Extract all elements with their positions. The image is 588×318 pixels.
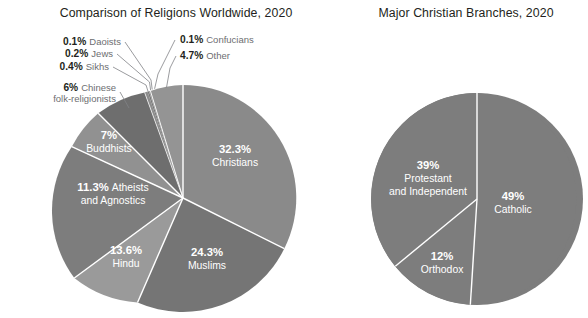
label-jews-name: Jews (91, 48, 113, 59)
label-sikhs: 0.4%Sikhs (60, 61, 110, 72)
label-daoists-name: Daoists (89, 36, 121, 47)
label-sikhs-pct: 0.4% (60, 61, 83, 72)
leader-other (167, 56, 177, 88)
label-protestant-pct: 39% (417, 159, 440, 171)
leader-daoists (125, 42, 152, 90)
label-jews-pct: 0.2% (65, 48, 88, 59)
label-chinese-folk-pct: 6% (63, 82, 78, 93)
label-catholic-pct: 49% (502, 190, 525, 202)
right-chart-title: Major Christian Branches, 2020 (378, 6, 553, 20)
label-orthodox-name: Orthodox (421, 264, 465, 275)
religions-pie-figure: Comparison of Religions Worldwide, 2020 … (0, 0, 588, 318)
label-chinese-folk-line1: 6%Chinese (63, 82, 116, 93)
label-atheists-line1: 11.3%Atheists (77, 181, 148, 193)
label-confucians-name: Confucians (206, 34, 254, 45)
label-chinese-folk-name: Chinese (81, 82, 116, 93)
label-christians-pct: 32.3% (219, 143, 251, 155)
label-protestant-line2: and Independent (389, 186, 467, 197)
label-hindu-name: Hindu (112, 258, 139, 269)
label-atheists-line2: and Agnostics (81, 195, 146, 206)
label-muslims-name: Muslims (188, 260, 226, 271)
label-daoists: 0.1%Daoists (63, 36, 121, 47)
label-hindu-pct: 13.6% (110, 244, 142, 256)
label-muslims-pct: 24.3% (191, 246, 223, 258)
label-chinese-folk-line2: folk-religionists (53, 93, 116, 104)
chart-canvas: Comparison of Religions Worldwide, 2020 … (0, 0, 588, 318)
right-pie-chart (371, 93, 583, 305)
label-buddhists-name: Buddhists (86, 143, 132, 154)
label-other-pct: 4.7% (180, 50, 203, 61)
leader-sikhs (113, 67, 148, 91)
label-christians-name: Christians (212, 157, 258, 168)
label-confucians-pct: 0.1% (180, 34, 203, 45)
label-sikhs-name: Sikhs (86, 61, 109, 72)
label-other: 4.7%Other (180, 50, 230, 61)
label-protestant-line1: Protestant (404, 173, 451, 184)
label-buddhists-pct: 7% (101, 129, 117, 141)
label-jews: 0.2%Jews (65, 48, 113, 59)
left-chart-title: Comparison of Religions Worldwide, 2020 (60, 6, 293, 20)
label-catholic-name: Catholic (494, 204, 532, 215)
label-daoists-pct: 0.1% (63, 36, 86, 47)
label-orthodox-pct: 12% (431, 250, 454, 262)
label-other-name: Other (206, 50, 230, 61)
label-confucians: 0.1%Confucians (180, 34, 254, 45)
